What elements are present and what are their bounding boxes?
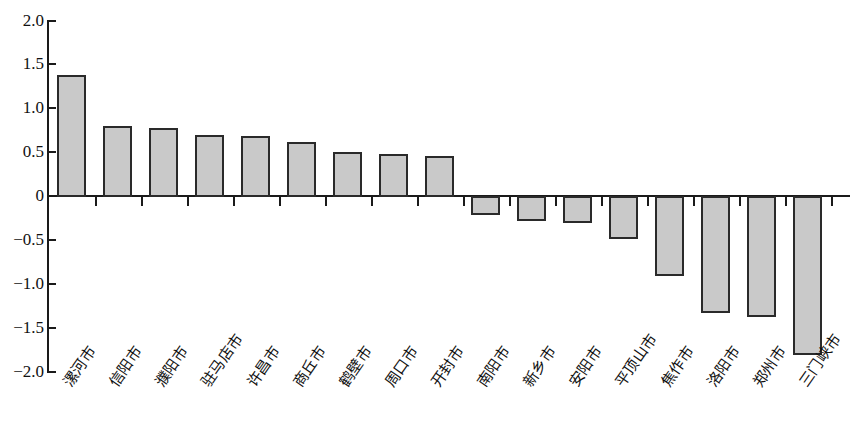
x-axis-tick [417,197,419,206]
bar [793,196,822,355]
bar [701,196,730,313]
x-axis-tick [141,197,143,206]
x-axis-label: 安阳市 [567,344,605,389]
bar [195,135,224,197]
x-axis-tick [739,197,741,206]
x-axis-label: 驻马店市 [199,332,246,390]
y-axis-tick-label: 1.0 [0,99,44,116]
bar [241,136,270,197]
x-axis-tick [647,197,649,206]
y-axis-tick-label: −0.5 [0,231,44,248]
x-axis-tick [601,197,603,206]
x-axis-tick [785,197,787,206]
y-axis-tick-label: −1.0 [0,275,44,292]
y-axis-tick [48,20,56,22]
bar [425,156,454,197]
bar [609,196,638,239]
x-axis-tick [555,197,557,206]
y-axis-tick [48,151,56,153]
y-axis-tick [48,195,56,197]
y-axis-tick-label: 0 [0,187,44,204]
x-axis-tick [463,197,465,206]
x-axis-tick [371,197,373,206]
x-axis-tick [187,197,189,206]
y-axis-tick-label: −1.5 [0,319,44,336]
bar [517,196,546,221]
y-axis-tick [48,63,56,65]
x-axis-label: 平顶山市 [613,332,660,390]
x-axis-tick [831,197,833,206]
x-axis-label: 焦作市 [659,344,697,389]
x-axis-label: 商丘市 [291,344,329,389]
x-axis-tick [279,197,281,206]
x-axis-label: 许昌市 [245,344,283,389]
bar [471,196,500,215]
x-axis-label: 濮阳市 [153,344,191,389]
x-axis-label: 南阳市 [475,344,513,389]
bar [149,128,178,197]
y-axis-tick-label: 1.5 [0,55,44,72]
y-axis-tick [48,371,56,373]
x-axis-tick [233,197,235,206]
x-axis-tick [95,197,97,206]
bar [379,154,408,197]
x-axis-label: 漯河市 [61,344,99,389]
x-axis-tick [325,197,327,206]
x-axis-label: 洛阳市 [705,344,743,389]
bar [103,126,132,197]
bar [563,196,592,223]
y-axis-tick [48,107,56,109]
bar [655,196,684,276]
y-axis-tick [48,327,56,329]
y-axis-tick-label: 2.0 [0,12,44,29]
x-axis-label: 周口市 [383,344,421,389]
x-axis-label: 信阳市 [107,344,145,389]
bar [747,196,776,317]
plot-area: 2.01.51.00.50−0.5−1.0−1.5−2.0 漯河市信阳市濮阳市驻… [0,0,850,441]
y-axis-tick [48,239,56,241]
x-axis-tick [509,197,511,206]
y-axis-line [47,21,49,373]
x-axis-tick [693,197,695,206]
bar [333,152,362,197]
y-axis-tick-label: 0.5 [0,143,44,160]
bar [287,142,316,197]
bar [57,75,86,197]
x-axis-label: 新乡市 [521,344,559,389]
x-axis-label: 鹤壁市 [337,344,375,389]
y-axis-tick-label: −2.0 [0,363,44,380]
bar-chart: 2.01.51.00.50−0.5−1.0−1.5−2.0 漯河市信阳市濮阳市驻… [0,0,850,441]
y-axis-tick [48,283,56,285]
x-axis-label: 郑州市 [751,344,789,389]
x-axis-label: 开封市 [429,344,467,389]
